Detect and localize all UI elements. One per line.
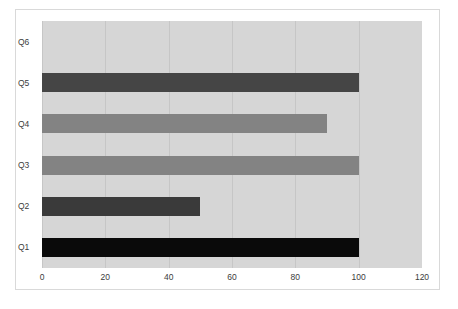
x-tick-label-0: 0 (40, 272, 45, 282)
bar-q2 (42, 197, 200, 216)
y-tick-label-q4: Q4 (18, 119, 44, 129)
gridline-40 (169, 21, 170, 268)
x-tick-label-60: 60 (227, 272, 236, 282)
plot-area (42, 21, 422, 268)
gridline-80 (295, 21, 296, 268)
bar-q3 (42, 156, 359, 175)
figure-frame: Q1Q2Q3Q4Q5Q6 020406080100120 (15, 9, 440, 290)
x-tick-label-80: 80 (291, 272, 300, 282)
x-axis-tick-labels: 020406080100120 (42, 268, 422, 286)
gridline-60 (232, 21, 233, 268)
y-tick-label-q1: Q1 (18, 242, 44, 252)
gridline-100 (359, 21, 360, 268)
x-tick-label-40: 40 (164, 272, 173, 282)
y-tick-label-q3: Q3 (18, 160, 44, 170)
y-tick-label-q6: Q6 (18, 37, 44, 47)
bar-q1 (42, 238, 359, 257)
bar-chart: Q1Q2Q3Q4Q5Q6 020406080100120 (16, 10, 439, 289)
y-tick-label-q2: Q2 (18, 201, 44, 211)
x-tick-label-100: 100 (352, 272, 366, 282)
gridline-20 (105, 21, 106, 268)
bar-q4 (42, 114, 327, 133)
x-tick-label-20: 20 (101, 272, 110, 282)
y-tick-label-q5: Q5 (18, 78, 44, 88)
gridline-0 (42, 21, 43, 268)
bar-q5 (42, 73, 359, 92)
x-tick-label-120: 120 (415, 272, 429, 282)
